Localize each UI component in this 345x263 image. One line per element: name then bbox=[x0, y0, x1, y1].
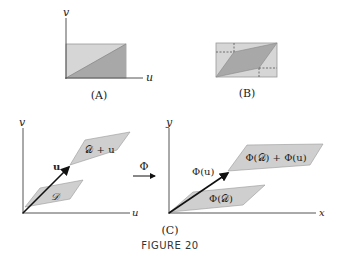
panel-c-label: (C) bbox=[162, 224, 179, 237]
region-d-plus-u-label: 𝒟 + u bbox=[85, 144, 115, 155]
u-axis-label: u bbox=[132, 207, 138, 218]
map-phi-label: Φ bbox=[139, 160, 148, 173]
figure-caption: FIGURE 20 bbox=[141, 240, 198, 251]
y-axis-label: y bbox=[165, 116, 173, 129]
region-phi-d-label: Φ(𝒟) bbox=[209, 193, 233, 204]
x-axis-label: x bbox=[319, 207, 325, 218]
panel-a: v u (A) bbox=[63, 6, 153, 102]
v-axis-label: v bbox=[19, 116, 26, 129]
v-axis-label: v bbox=[63, 6, 70, 19]
panel-a-label: (A) bbox=[91, 89, 108, 102]
vector-u-label: u bbox=[53, 161, 60, 172]
map-phi: Φ bbox=[133, 160, 155, 176]
panel-c-left: v u u 𝒟 𝒟 + u bbox=[19, 116, 138, 218]
figure-canvas: v u (A) (B) v u u 𝒟 𝒟 + u Φ y bbox=[0, 0, 345, 263]
region-phi-d-plus-phi-u-label: Φ(𝒟) + Φ(u) bbox=[245, 152, 306, 163]
panel-c-right: y x Φ(u) Φ(𝒟) Φ(𝒟) + Φ(u) bbox=[165, 116, 325, 218]
vector-phi-u-label: Φ(u) bbox=[192, 166, 215, 177]
panel-b: (B) bbox=[216, 43, 277, 100]
panel-b-label: (B) bbox=[239, 87, 256, 100]
u-axis-label: u bbox=[146, 71, 153, 84]
